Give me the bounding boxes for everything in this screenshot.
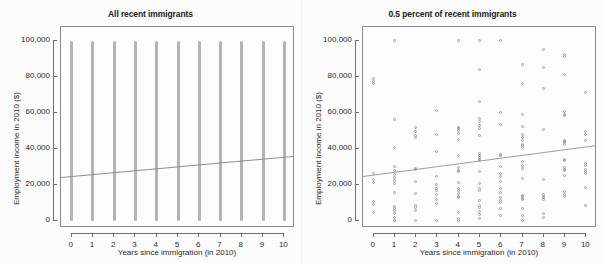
data-point-right (372, 181, 375, 184)
data-band-left-x1 (91, 41, 94, 220)
y-tick-label-right-1: 20,000 (306, 179, 352, 188)
data-point-right (478, 120, 481, 123)
data-point-right (584, 133, 587, 136)
data-point-right (521, 207, 524, 210)
data-point-right (372, 203, 375, 206)
data-point-right (521, 113, 524, 116)
data-point-right (478, 39, 481, 42)
data-point-right (542, 87, 545, 90)
y-tick-label-left-4: 80,000 (4, 71, 50, 80)
data-band-left-x4 (155, 41, 158, 220)
data-point-right (521, 198, 524, 201)
y-tick-mark-right-4 (355, 76, 359, 77)
data-point-right (435, 175, 438, 178)
data-point-right (478, 213, 481, 216)
data-point-right (563, 73, 566, 76)
y-tick-label-right-2: 40,000 (306, 143, 352, 152)
y-tick-mark-right-0 (355, 220, 359, 221)
data-point-right (414, 126, 417, 129)
x-tick-mark-left-3 (134, 233, 135, 237)
x-tick-mark-left-9 (262, 233, 263, 237)
y-tick-mark-left-4 (53, 76, 57, 77)
y-tick-mark-left-2 (53, 148, 57, 149)
data-point-right (457, 219, 460, 222)
x-tick-mark-left-7 (220, 233, 221, 237)
data-point-right (414, 209, 417, 212)
plot-area-left (60, 26, 294, 227)
x-tick-mark-left-8 (241, 233, 242, 237)
data-point-right (478, 170, 481, 173)
y-tick-label-right-4: 80,000 (306, 71, 352, 80)
data-point-right (435, 202, 438, 205)
data-band-left-x2 (113, 41, 116, 220)
data-point-right (393, 39, 396, 42)
data-point-right (584, 139, 587, 142)
data-point-right (542, 48, 545, 51)
x-tick-mark-right-9 (564, 233, 565, 237)
y-tick-label-left-3: 60,000 (4, 107, 50, 116)
data-point-right (457, 181, 460, 184)
y-tick-label-left-1: 20,000 (4, 179, 50, 188)
data-point-right (521, 160, 524, 163)
x-tick-mark-right-5 (479, 233, 480, 237)
data-point-right (478, 217, 481, 220)
data-point-right (499, 207, 502, 210)
data-point-right (478, 199, 481, 202)
data-point-right (478, 134, 481, 137)
x-tick-mark-left-1 (92, 233, 93, 237)
data-point-right (414, 130, 417, 133)
x-tick-label-left-10: 10 (271, 240, 295, 249)
data-point-right (499, 175, 502, 178)
y-tick-label-left-2: 40,000 (4, 143, 50, 152)
x-tick-mark-left-5 (177, 233, 178, 237)
data-point-right (499, 187, 502, 190)
x-axis-label-right: Years since immigration (in 2010) (362, 248, 596, 257)
data-point-right (435, 189, 438, 192)
x-tick-mark-left-0 (71, 233, 72, 237)
plot-area-right (362, 26, 596, 227)
data-point-right (563, 159, 566, 162)
data-point-right (499, 214, 502, 217)
data-band-left-x7 (219, 41, 222, 220)
y-tick-mark-left-3 (53, 112, 57, 113)
data-point-right (414, 219, 417, 222)
data-point-right (542, 178, 545, 181)
data-point-right (435, 109, 438, 112)
data-point-right (499, 111, 502, 114)
data-point-right (542, 216, 545, 219)
data-point-right (521, 133, 524, 136)
data-point-right (521, 125, 524, 128)
data-point-right (393, 176, 396, 179)
data-point-right (372, 211, 375, 214)
data-point-right (414, 192, 417, 195)
x-tick-mark-right-2 (415, 233, 416, 237)
x-tick-mark-right-1 (394, 233, 395, 237)
data-point-right (563, 55, 566, 58)
x-tick-label-right-10: 10 (573, 240, 597, 249)
data-point-right (584, 164, 587, 167)
data-point-right (478, 206, 481, 209)
y-axis-line-right (355, 40, 356, 219)
data-band-left-x10 (283, 41, 286, 220)
data-point-right (478, 68, 481, 71)
data-point-right (435, 183, 438, 186)
data-point-right (478, 100, 481, 103)
data-point-right (563, 195, 566, 198)
data-band-left-x9 (262, 41, 265, 220)
data-point-right (435, 133, 438, 136)
data-point-right (372, 82, 375, 85)
y-tick-label-left-5: 100,000 (4, 35, 50, 44)
x-tick-mark-left-4 (156, 233, 157, 237)
data-point-right (435, 219, 438, 222)
x-tick-mark-right-4 (458, 233, 459, 237)
x-tick-mark-right-10 (585, 233, 586, 237)
data-band-left-x8 (240, 41, 243, 220)
data-point-right (584, 186, 587, 189)
data-point-right (499, 165, 502, 168)
data-point-right (435, 150, 438, 153)
data-point-right (435, 198, 438, 201)
y-tick-mark-right-2 (355, 148, 359, 149)
data-band-left-x3 (134, 41, 137, 220)
data-point-right (393, 165, 396, 168)
data-point-right (542, 66, 545, 69)
